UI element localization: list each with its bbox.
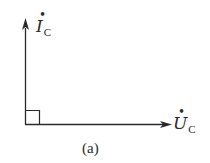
right-angle-marker-icon	[26, 111, 40, 125]
phasor-diagram: •IC •UC (a)	[0, 0, 210, 163]
dot-accent-icon: •	[178, 106, 185, 118]
current-symbol: •I	[36, 16, 43, 36]
voltage-subscript: C	[188, 123, 195, 135]
phasor-axes	[0, 0, 210, 163]
current-phasor-label: •IC	[36, 18, 51, 35]
voltage-phasor-label: •UC	[173, 115, 196, 132]
current-subscript: C	[44, 26, 51, 38]
dot-accent-icon: •	[39, 9, 46, 21]
voltage-symbol: •U	[173, 113, 187, 133]
figure-caption: (a)	[82, 141, 99, 156]
